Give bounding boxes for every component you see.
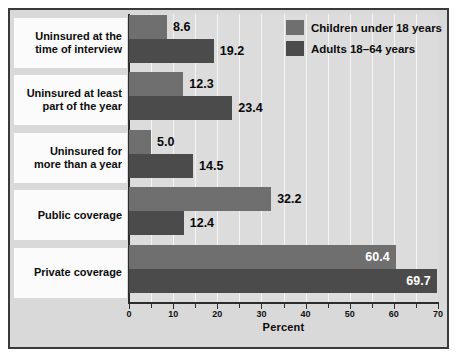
x-axis-tick bbox=[328, 304, 329, 308]
x-axis-tick bbox=[372, 304, 373, 308]
bar-value-label: 5.0 bbox=[157, 135, 174, 149]
category-label-line: more than a year bbox=[34, 158, 122, 170]
x-axis-tick bbox=[416, 304, 417, 308]
legend-swatch-adults-icon bbox=[286, 41, 304, 56]
x-axis-tick-label: 60 bbox=[389, 309, 399, 319]
bar-value-label: 60.4 bbox=[356, 250, 390, 264]
bar-chart-figure: Uninsured at thetime of interviewUninsur… bbox=[8, 8, 449, 349]
category-label-line: Uninsured at the bbox=[35, 30, 122, 42]
category-label-line: Uninsured for bbox=[50, 145, 122, 157]
category-label: Uninsured at thetime of interview bbox=[14, 18, 127, 68]
bar-children bbox=[129, 187, 271, 211]
legend: Children under 18 years Adults 18–64 yea… bbox=[286, 18, 442, 60]
x-axis-tick bbox=[195, 304, 196, 308]
category-label-panel: Uninsured at thetime of interviewUninsur… bbox=[14, 14, 129, 302]
x-axis-tick bbox=[284, 304, 285, 308]
bar-children bbox=[129, 15, 167, 39]
bar-value-label: 23.4 bbox=[238, 101, 262, 115]
bar-children bbox=[129, 72, 183, 96]
bar-value-label: 19.2 bbox=[220, 44, 244, 58]
x-axis-tick-label: 0 bbox=[126, 309, 131, 319]
bar-adults bbox=[129, 154, 193, 178]
category-label: Private coverage bbox=[14, 248, 127, 298]
category-label-line: Public coverage bbox=[38, 209, 122, 221]
x-axis-tick-label: 40 bbox=[301, 309, 311, 319]
category-label: Uninsured at leastpart of the year bbox=[14, 75, 127, 125]
bar-adults bbox=[129, 211, 184, 235]
bar-adults bbox=[129, 269, 437, 293]
category-label: Uninsured formore than a year bbox=[14, 133, 127, 183]
x-axis-tick bbox=[151, 304, 152, 308]
bar-value-label: 69.7 bbox=[397, 274, 431, 288]
legend-swatch-children-icon bbox=[286, 20, 304, 35]
category-label: Public coverage bbox=[14, 190, 127, 240]
bar-value-label: 32.2 bbox=[277, 192, 301, 206]
bar-value-label: 12.4 bbox=[190, 216, 214, 230]
x-axis-tick-label: 50 bbox=[345, 309, 355, 319]
category-label-line: time of interview bbox=[35, 43, 122, 55]
legend-item-adults: Adults 18–64 years bbox=[286, 39, 442, 58]
bar-value-label: 8.6 bbox=[173, 20, 190, 34]
x-axis-tick-label: 70 bbox=[433, 309, 443, 319]
category-label-line: Private coverage bbox=[34, 266, 122, 278]
bar-value-label: 14.5 bbox=[199, 159, 223, 173]
x-axis-tick-label: 10 bbox=[168, 309, 178, 319]
legend-label-children: Children under 18 years bbox=[311, 22, 442, 34]
category-label-line: part of the year bbox=[43, 100, 122, 112]
x-axis-tick-label: 30 bbox=[256, 309, 266, 319]
x-axis-tick-label: 20 bbox=[212, 309, 222, 319]
x-axis-tick bbox=[239, 304, 240, 308]
legend-label-adults: Adults 18–64 years bbox=[311, 43, 415, 55]
legend-item-children: Children under 18 years bbox=[286, 18, 442, 37]
bar-children bbox=[129, 130, 151, 154]
x-axis-title: Percent bbox=[129, 321, 438, 333]
bar-adults bbox=[129, 39, 214, 63]
bar-value-label: 12.3 bbox=[189, 77, 213, 91]
bar-adults bbox=[129, 96, 232, 120]
category-label-line: Uninsured at least bbox=[27, 87, 122, 99]
